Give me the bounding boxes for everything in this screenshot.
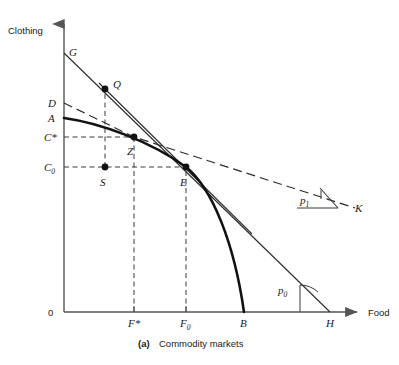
- ppf-diagram-svg: Clothing Food 0 D A C* C0 F* F0 B H G Q …: [0, 0, 399, 365]
- y-axis-label: Clothing: [8, 25, 43, 36]
- figure-commodity-markets: Clothing Food 0 D A C* C0 F* F0 B H G Q …: [0, 0, 399, 365]
- x-mark-label-F0: F0: [179, 317, 191, 332]
- y-mark-label-D: D: [47, 97, 56, 109]
- dot-point-Q[interactable]: [102, 86, 109, 93]
- x-axis-label: Food: [368, 307, 390, 318]
- y-mark-label-Cstar: C*: [44, 131, 57, 143]
- dot-point-E[interactable]: [183, 164, 190, 171]
- angle-marker-p0: [300, 285, 318, 312]
- angle-marker-labels: p1 p0: [277, 194, 309, 299]
- y-axis-mark-labels: D A C* C0: [44, 97, 57, 176]
- angle-label-p0-sub: 0: [284, 290, 288, 299]
- x-mark-label-B: B: [240, 317, 247, 329]
- point-label-Q: Q: [113, 78, 121, 90]
- point-label-K: K: [354, 202, 363, 214]
- point-label-G: G: [69, 46, 77, 58]
- x-mark-label-Fstar: F*: [127, 317, 141, 329]
- angle-label-p0: p0: [277, 284, 288, 299]
- y-mark-label-A: A: [47, 112, 55, 124]
- caption-tag: (a): [138, 338, 150, 349]
- angle-label-p1: p1: [299, 194, 309, 209]
- y-mark-label-C0: C0: [44, 161, 55, 176]
- dot-point-S[interactable]: [102, 164, 109, 171]
- figure-caption: (a) Commodity markets: [138, 338, 244, 349]
- x-mark-label-H: H: [325, 317, 335, 329]
- origin-label: 0: [48, 307, 53, 318]
- angle-label-p1-sub: 1: [306, 200, 310, 209]
- p1-hypotenuse: [320, 188, 338, 208]
- caption-text: Commodity markets: [159, 338, 244, 349]
- x-axis-mark-labels: F* F0 B H: [127, 317, 335, 332]
- point-label-S: S: [100, 176, 106, 188]
- point-label-Z: Z: [127, 145, 134, 157]
- x-mark-label-F0-sub: 0: [187, 323, 191, 332]
- y-mark-label-C0-sub: 0: [51, 167, 55, 176]
- dot-point-Z[interactable]: [131, 134, 138, 141]
- production-possibility-frontier: [64, 118, 244, 312]
- x-axis-ticks-group: [134, 306, 186, 312]
- point-label-E: E: [179, 176, 187, 188]
